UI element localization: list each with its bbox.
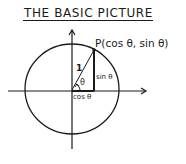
radius-label: 1	[76, 63, 82, 73]
sine-label: sin θ	[96, 73, 113, 81]
angle-label: θ	[80, 78, 85, 87]
cosine-label: cos θ	[73, 93, 91, 101]
diagram-title: THE BASIC PICTURE	[23, 6, 153, 20]
unit-circle-diagram: THE BASIC PICTURE P(cos θ, sin θ) 1 θ si…	[0, 0, 186, 164]
point-label: P(cos θ, sin θ)	[95, 37, 168, 49]
